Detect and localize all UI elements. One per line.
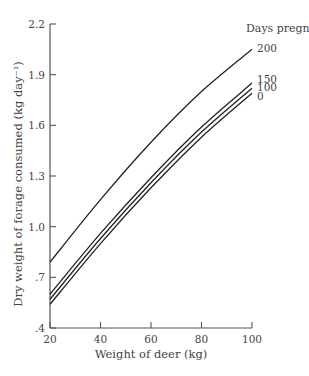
x-tick-label: 100 [242, 333, 262, 345]
x-tick-label: 60 [144, 333, 157, 345]
labels: Weight of deer (kg)Dry weight of forage … [11, 22, 309, 361]
x-tick-label: 80 [195, 333, 208, 345]
series-label-0: 0 [257, 90, 264, 102]
data-lines [50, 49, 252, 304]
x-axis-title: Weight of deer (kg) [95, 347, 208, 361]
legend-title: Days pregnant [246, 22, 309, 35]
x-tick-label: 20 [43, 333, 56, 345]
y-tick-label: .7 [35, 271, 45, 283]
series-line-200 [50, 49, 252, 262]
chart: .4.71.01.31.61.92.220406080100 Weight of… [0, 0, 309, 376]
y-axis-title: Dry weight of forage consumed (kg day⁻¹) [11, 61, 25, 307]
y-tick-label: 1.3 [28, 170, 45, 182]
y-tick-label: 1.6 [28, 119, 45, 131]
x-tick-label: 40 [94, 333, 107, 345]
series-line-0 [50, 93, 252, 304]
y-tick-label: 1.9 [28, 69, 45, 81]
y-tick-label: 2.2 [28, 18, 45, 30]
axes: .4.71.01.31.61.92.220406080100 [28, 18, 262, 345]
y-tick-label: 1.0 [28, 221, 45, 233]
series-label-200: 200 [257, 42, 277, 54]
